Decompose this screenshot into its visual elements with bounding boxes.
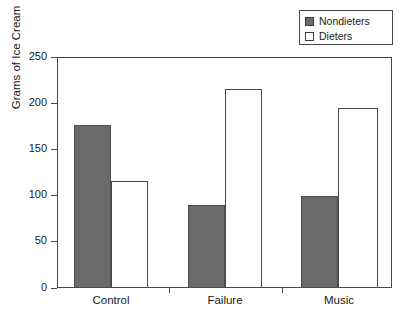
bar-control-dieters	[111, 181, 148, 288]
y-tick-label-50: 50	[7, 235, 47, 246]
bar-failure-dieters	[225, 89, 262, 288]
x-tick-separator-1	[169, 288, 170, 293]
x-tick-separator-2	[282, 288, 283, 293]
y-tick-label-0: 0	[7, 282, 47, 293]
plot-area	[57, 57, 392, 288]
bar-control-nondieters	[74, 125, 111, 288]
y-tick-label-150: 150	[7, 143, 47, 154]
bar-music-nondieters	[301, 196, 338, 288]
y-tick-label-200: 200	[7, 97, 47, 108]
y-tick-label-250: 250	[7, 51, 47, 62]
y-tick-0	[51, 288, 57, 289]
legend-item-nondieters: Nondieters	[305, 14, 392, 28]
legend-label-dieters: Dieters	[319, 31, 352, 42]
x-tick-label-failure: Failure	[185, 294, 265, 307]
legend-swatch-dieters-icon	[305, 32, 314, 41]
x-tick-label-music: Music	[299, 294, 379, 307]
x-tick-label-control: Control	[71, 294, 151, 307]
bar-music-dieters	[338, 108, 378, 288]
bar-chart-figure: Nondieters Dieters Grams of Ice Cream 25…	[0, 0, 408, 318]
legend-swatch-nondieters-icon	[305, 17, 314, 26]
legend-label-nondieters: Nondieters	[319, 16, 370, 27]
chart-legend: Nondieters Dieters	[299, 10, 393, 45]
y-tick-label-100: 100	[7, 189, 47, 200]
legend-item-dieters: Dieters	[305, 29, 392, 43]
bar-failure-nondieters	[188, 205, 225, 288]
